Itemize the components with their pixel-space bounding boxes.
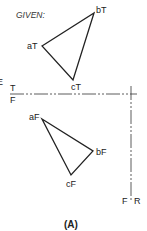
edge-label: E (0, 77, 3, 87)
vertex-label-bT: bT (96, 5, 107, 15)
top-view-triangle (42, 13, 94, 80)
figure-caption: (A) (64, 219, 78, 230)
front-view-triangle (42, 119, 93, 175)
descriptive-geometry-diagram: GIVEN: aT bT cT E T F F R aF bF cF (A) (0, 0, 147, 231)
fold-label-F-side: F (122, 196, 128, 206)
vertex-label-cF: cF (66, 179, 77, 189)
given-label: GIVEN: (16, 10, 45, 20)
fold-label-R: R (134, 196, 141, 206)
vertex-label-cT: cT (71, 82, 82, 92)
vertex-label-aF: aF (29, 112, 40, 122)
vertex-label-bF: bF (96, 147, 107, 157)
fold-label-T: T (10, 83, 16, 93)
vertex-label-aT: aT (27, 41, 38, 51)
fold-label-F-top: F (10, 95, 16, 105)
